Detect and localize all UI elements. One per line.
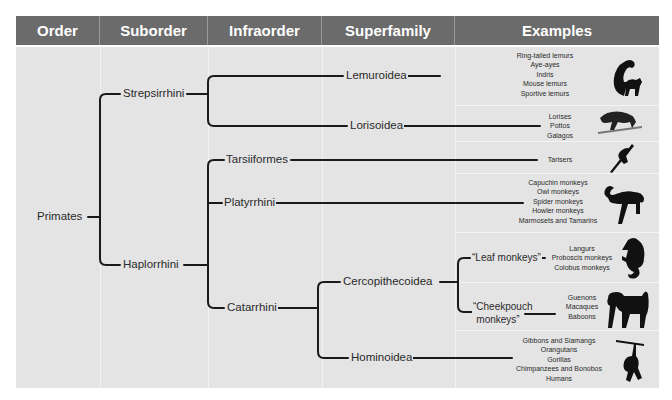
example-item: Tarisers [540,155,580,164]
primate-classification-diagram: Order Suborder Infraorder Superfamily Ex… [0,0,672,400]
example-item: Colobus monkeys [546,263,618,272]
examples-tarsiiformes: Tarisers [540,155,580,164]
example-item: Macaques [557,302,607,311]
example-item: Spider monkeys [510,197,606,206]
lemur-silhouette-icon [610,52,644,102]
langur-silhouette-icon [618,236,648,282]
gibbon-silhouette-icon [614,336,646,386]
node-platyrrhini: Platyrrhini [223,196,276,209]
example-item: Baboons [557,312,607,321]
example-item: Marmosets and Tamarins [510,216,606,225]
example-item: Langurs [546,244,618,253]
example-item: Owl monkeys [510,187,606,196]
node-primates: Primates [36,210,83,223]
example-item: Guenons [557,293,607,302]
examples-cheekpouch-monkeys: Guenons Macaques Baboons [557,293,607,321]
node-cheekpouch-line2: monkeys” [473,313,523,326]
example-item: Galagos [540,131,580,140]
example-item: Gorillas [509,355,609,364]
tarsier-silhouette-icon [606,142,636,174]
example-item: Sportive lemurs [505,89,585,98]
node-cheekpouch-monkeys: “Cheekpouch monkeys” [472,300,524,326]
example-item: Ring-tailed lemurs [505,51,585,60]
node-haplorrhini: Haplorrhini [122,258,180,271]
example-item: Gibbons and Siamangs [509,336,609,345]
node-hominoidea: Hominoidea [350,351,413,364]
example-item: Howler monkeys [510,206,606,215]
examples-leaf-monkeys: Langurs Proboscis monkeys Colobus monkey… [546,244,618,272]
loris-silhouette-icon [596,108,644,136]
example-item: Orangutans [509,345,609,354]
baboon-silhouette-icon [604,284,652,330]
example-item: Lorises [540,112,580,121]
examples-hominoidea: Gibbons and Siamangs Orangutans Gorillas… [509,336,609,383]
example-item: Indris [505,70,585,79]
example-item: Pottos [540,121,580,130]
node-tarsiiformes: Tarsiiformes [225,153,289,166]
node-catarrhini: Catarrhini [226,301,278,314]
example-item: Aye-ayes [505,60,585,69]
node-leaf-monkeys: “Leaf monkeys” [471,251,542,264]
example-item: Chimpanzees and Bonobos [509,364,609,373]
examples-lorisoidea: Lorises Pottos Galagos [540,112,580,140]
node-strepsirrhini: Strepsirrhini [122,87,185,100]
examples-lemuroidea: Ring-tailed lemurs Aye-ayes Indris Mouse… [505,51,585,98]
example-item: Mouse lemurs [505,79,585,88]
node-lemuroidea: Lemuroidea [345,69,408,82]
node-cercopithecoidea: Cercopithecoidea [342,275,434,288]
example-item: Humans [509,374,609,383]
example-item: Capuchin monkeys [510,178,606,187]
example-item: Proboscis monkeys [546,253,618,262]
spider-monkey-silhouette-icon [600,184,646,228]
examples-platyrrhini: Capuchin monkeys Owl monkeys Spider monk… [510,178,606,225]
node-lorisoidea: Lorisoidea [349,119,404,132]
node-cheekpouch-line1: “Cheekpouch [473,300,523,313]
